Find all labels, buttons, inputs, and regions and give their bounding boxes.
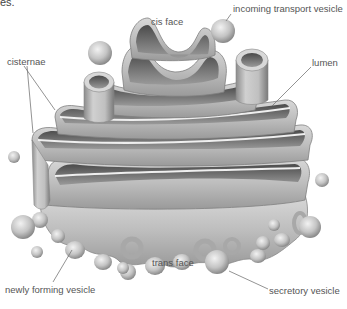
vesicle — [315, 173, 329, 187]
leader-secretory-vesicle — [229, 271, 268, 289]
vesicle — [88, 41, 112, 65]
vesicle — [117, 262, 129, 274]
label-cis-face: cis face — [151, 17, 183, 27]
label-cisternae: cisternae — [7, 57, 46, 67]
vesicle — [31, 246, 43, 258]
vesicle — [256, 236, 270, 250]
vesicle — [11, 215, 35, 239]
clipped-caption-fragment: es. — [0, 0, 15, 8]
vesicle — [8, 151, 20, 163]
label-newly-forming-vesicle: newly forming vesicle — [5, 285, 95, 295]
vesicle — [299, 216, 321, 238]
vesicle — [268, 219, 280, 231]
leader-cisternae-2 — [27, 66, 33, 133]
label-incoming-transport-vesicle: incoming transport vesicle — [233, 4, 343, 14]
label-trans-face: trans face — [152, 258, 194, 268]
golgi-diagram: es. cis face incoming transport vesicle … — [0, 0, 347, 309]
leader-newly-forming-vesicle — [53, 250, 72, 282]
label-secretory-vesicle: secretory vesicle — [269, 286, 340, 296]
leader-incoming-vesicle — [226, 14, 231, 21]
secretory-vesicle — [205, 250, 229, 274]
label-lumen: lumen — [312, 58, 338, 68]
incoming-transport-vesicle — [211, 19, 235, 43]
cis-cisternae-upper — [122, 18, 226, 96]
leader-lumen — [272, 67, 311, 106]
